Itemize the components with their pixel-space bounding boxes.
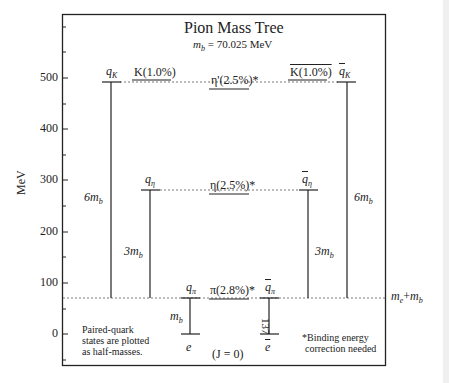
label-6mb-right: 6mb xyxy=(354,190,373,206)
label-3mb-left: 3mb xyxy=(124,244,143,260)
subtitle-symbol: m xyxy=(193,38,201,50)
y-axis-label: MeV xyxy=(14,170,29,195)
y-tick-500: 500 xyxy=(28,70,58,85)
label-e: e xyxy=(186,340,191,355)
label-pi: π(2.8%)* xyxy=(210,283,255,298)
y-tick-400: 400 xyxy=(28,121,58,136)
chart-subtitle: mb = 70.025 MeV xyxy=(193,38,272,53)
label-q-pi: qπ xyxy=(186,280,196,296)
label-3mb-right: 3mb xyxy=(315,244,334,260)
label-eta: η(2.5%)* xyxy=(210,178,255,193)
label-e-bar: e xyxy=(265,340,270,355)
y-tick-300: 300 xyxy=(28,172,58,187)
label-eta-prime: η'(2.5%)* xyxy=(211,73,258,88)
y-tick-200: 200 xyxy=(28,224,58,239)
label-q-eta-bar: qη xyxy=(302,172,312,188)
subtitle-value: = 70.025 MeV xyxy=(205,38,272,50)
chart-title: Pion Mass Tree xyxy=(184,19,284,37)
label-137: 137 xyxy=(260,318,272,335)
label-spin: (J = 0) xyxy=(212,347,243,362)
label-mb: mb xyxy=(170,309,183,325)
label-me-plus-mb: me+mb xyxy=(391,289,423,305)
label-q-pi-bar: qπ xyxy=(265,280,275,296)
y-tick-100: 100 xyxy=(28,275,58,290)
note-binding-energy: *Binding energycorrection needed xyxy=(302,332,376,354)
y-tick-0: 0 xyxy=(28,326,58,341)
label-6mb-left: 6mb xyxy=(84,190,103,206)
note-paired-quark: Paired-quarkstates are plottedas half-ma… xyxy=(82,324,149,357)
label-K-bar: K(1.0%) xyxy=(290,65,332,80)
label-q-K: qK xyxy=(106,64,117,80)
label-q-eta: qη xyxy=(145,172,155,188)
label-K: K(1.0%) xyxy=(134,65,176,80)
label-q-K-bar: qK xyxy=(339,64,350,80)
